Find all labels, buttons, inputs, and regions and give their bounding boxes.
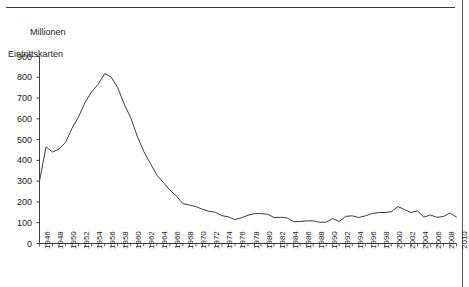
x-axis-tick-label: 1982 (278, 231, 287, 249)
y-axis-tick-label: 200 (4, 197, 32, 207)
x-axis-tick-label: 1964 (160, 231, 169, 249)
x-axis-tick-label: 1960 (134, 231, 143, 249)
x-axis-tick-label: 1976 (238, 231, 247, 249)
y-axis-tick-label: 800 (4, 72, 32, 82)
x-axis-tick-label: 1954 (95, 231, 104, 249)
x-axis-tick-label: 1980 (265, 231, 274, 249)
x-axis-tick-label: 1962 (147, 231, 156, 249)
x-axis-tick-label: 2008 (447, 231, 456, 249)
x-axis-tick-label: 1988 (317, 231, 326, 249)
y-axis-tick-label: 100 (4, 218, 32, 228)
x-axis-tick-label: 1974 (225, 231, 234, 249)
x-axis-tick-label: 1950 (69, 231, 78, 249)
x-axis-tick-label: 1984 (291, 231, 300, 249)
x-axis-tick-label: 2002 (408, 231, 417, 249)
x-axis-tick-label: 1992 (343, 231, 352, 249)
x-axis-tick-label: 2004 (421, 231, 430, 249)
y-axis-tick-label: 700 (4, 93, 32, 103)
x-axis-tick-label: 1986 (304, 231, 313, 249)
x-axis-tick-label: 1990 (330, 231, 339, 249)
x-axis-tick-label: 1998 (382, 231, 391, 249)
y-axis-tick-label: 400 (4, 155, 32, 165)
y-axis-tick-label: 0 (4, 239, 32, 249)
x-axis-tick-label: 1948 (56, 231, 65, 249)
y-axis-tick-label: 600 (4, 114, 32, 124)
series-line-eintrittskarten (40, 74, 457, 223)
y-axis-tick-label: 900 (4, 52, 32, 62)
x-axis-tick-label: 1958 (121, 231, 130, 249)
x-axis-tick-label: 2000 (395, 231, 404, 249)
x-axis-tick-label: 2010 (460, 231, 469, 249)
x-axis-tick-label: 1952 (82, 231, 91, 249)
y-axis-tick-label: 500 (4, 135, 32, 145)
x-axis-tick-label: 1946 (43, 231, 52, 249)
x-axis-tick-label: 1966 (173, 231, 182, 249)
x-axis-tick-label: 2006 (434, 231, 443, 249)
x-axis-tick-label: 1978 (252, 231, 261, 249)
x-axis-tick-label: 1970 (199, 231, 208, 249)
x-axis-tick-label: 1968 (186, 231, 195, 249)
document-page: Millionen Eintrittskarten 01002003004005… (0, 0, 469, 287)
data-series-group (40, 74, 457, 223)
y-axis-tick-label: 300 (4, 176, 32, 186)
x-axis-tick-label: 1994 (356, 231, 365, 249)
x-axis-tick-label: 1956 (108, 231, 117, 249)
x-axis-tick-label: 1996 (369, 231, 378, 249)
x-axis-tick-label: 1972 (212, 231, 221, 249)
